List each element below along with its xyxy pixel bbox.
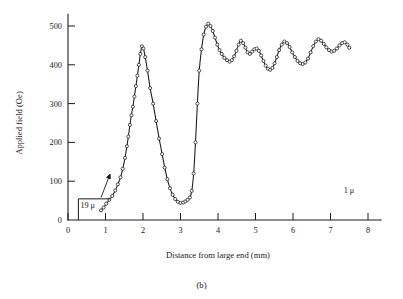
data-point: [280, 43, 283, 46]
data-point: [168, 187, 171, 190]
data-point: [125, 145, 128, 148]
data-point: [314, 40, 317, 43]
data-point: [230, 59, 233, 62]
x-tick-label-0: 0: [66, 226, 70, 235]
data-point: [216, 43, 219, 46]
x-tick-label-3: 3: [178, 226, 182, 235]
data-point: [346, 43, 349, 46]
y-axis-ticks: [68, 26, 75, 181]
annotation-1-micron: 1 μ: [344, 186, 355, 195]
data-point: [111, 194, 114, 197]
data-point: [200, 48, 203, 51]
y-tick-label-500: 500: [50, 22, 62, 31]
data-point: [121, 167, 124, 170]
data-point: [296, 59, 299, 62]
data-point: [278, 49, 281, 52]
data-point: [146, 69, 149, 72]
data-point: [99, 209, 102, 212]
data-point: [309, 51, 312, 54]
y-tick-label-400: 400: [50, 61, 62, 70]
data-point: [320, 39, 323, 42]
data-point: [306, 57, 309, 60]
data-point: [155, 120, 158, 123]
data-point: [137, 63, 140, 66]
data-point: [257, 49, 260, 52]
data-point: [271, 66, 274, 69]
data-point: [128, 123, 131, 126]
data-point: [235, 49, 238, 52]
data-point: [322, 42, 325, 45]
data-point: [288, 45, 291, 48]
data-point: [119, 176, 122, 179]
x-tick-label-5: 5: [253, 226, 257, 235]
data-point: [130, 114, 133, 117]
data-point: [133, 95, 136, 98]
data-point: [211, 29, 214, 32]
data-point: [116, 183, 119, 186]
data-point: [131, 105, 134, 108]
data-point: [136, 74, 139, 77]
data-point: [152, 102, 155, 105]
figure-panel: 0100200300400500 012345678 19 μ 1 μ Dist…: [0, 0, 403, 299]
axes: 0100200300400500 012345678: [50, 14, 382, 235]
data-point: [333, 49, 336, 52]
data-point: [174, 198, 177, 201]
annotation-arrowhead-icon: [107, 174, 111, 179]
data-point: [260, 54, 263, 57]
data-point: [213, 36, 216, 39]
data-point: [220, 52, 223, 55]
data-point: [338, 44, 341, 47]
data-markers: [99, 22, 350, 212]
x-tick-label-4: 4: [216, 226, 221, 235]
data-point: [218, 49, 221, 52]
x-tick-label-1: 1: [103, 226, 107, 235]
data-point: [312, 45, 315, 48]
data-series-group: [99, 22, 350, 212]
x-axis-title: Distance from large end (mm): [166, 250, 270, 260]
x-tick-label-6: 6: [291, 226, 295, 235]
x-tick-label-8: 8: [366, 226, 370, 235]
data-point: [293, 55, 296, 58]
data-point: [158, 137, 161, 140]
data-point: [166, 178, 169, 181]
data-point: [348, 46, 351, 49]
data-point: [275, 55, 278, 58]
y-tick-label-300: 300: [50, 100, 62, 109]
data-point: [264, 64, 267, 67]
y-tick-label-200: 200: [50, 138, 62, 147]
chart-canvas: 0100200300400500 012345678 19 μ 1 μ Dist…: [0, 0, 403, 299]
data-point: [343, 41, 346, 44]
data-point: [188, 196, 191, 199]
data-point: [105, 202, 108, 205]
data-point: [209, 24, 212, 27]
data-point: [134, 85, 137, 88]
data-point: [262, 59, 265, 62]
data-point: [233, 55, 236, 58]
data-point: [244, 46, 247, 49]
data-point: [161, 152, 164, 155]
data-point: [114, 189, 117, 192]
y-tick-label-100: 100: [50, 177, 62, 186]
data-point: [163, 166, 166, 169]
data-point: [304, 61, 307, 64]
data-point: [285, 42, 288, 45]
data-point: [198, 69, 201, 72]
data-point: [237, 43, 240, 46]
data-point: [171, 193, 174, 196]
data-point: [202, 33, 205, 36]
annotation-19-micron: 19 μ: [80, 201, 95, 210]
data-point: [223, 56, 226, 59]
data-point: [190, 189, 193, 192]
data-point: [325, 46, 328, 49]
y-axis-title: Applied field (Oe): [14, 91, 24, 155]
data-point: [204, 25, 207, 28]
data-point: [139, 52, 142, 55]
x-axis-tick-labels: 012345678: [66, 226, 370, 235]
data-point: [149, 87, 152, 90]
data-point: [144, 55, 147, 58]
data-point: [242, 42, 245, 45]
data-point: [102, 206, 105, 209]
x-tick-label-2: 2: [141, 226, 145, 235]
data-point: [335, 47, 338, 50]
figure-caption: (b): [196, 280, 206, 290]
